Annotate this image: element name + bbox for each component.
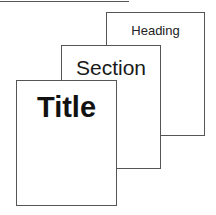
section-label: Section: [62, 56, 160, 80]
heading-label: Heading: [107, 23, 204, 38]
title-label: Title: [17, 91, 116, 124]
title-page: Title: [16, 80, 117, 206]
top-rule-line: [0, 1, 129, 2]
